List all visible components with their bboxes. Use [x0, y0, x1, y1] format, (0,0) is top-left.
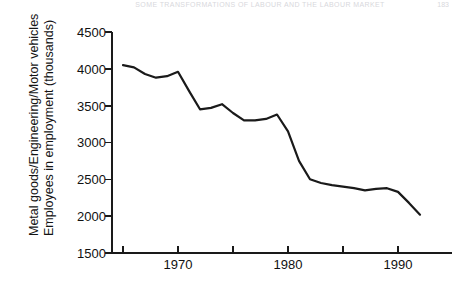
- y-axis: [105, 32, 112, 253]
- plot-area: [0, 0, 463, 287]
- data-series-line: [123, 65, 420, 215]
- x-axis: [112, 246, 452, 253]
- chart-figure: SOME TRANSFORMATIONS OF LABOUR AND THE L…: [0, 0, 463, 287]
